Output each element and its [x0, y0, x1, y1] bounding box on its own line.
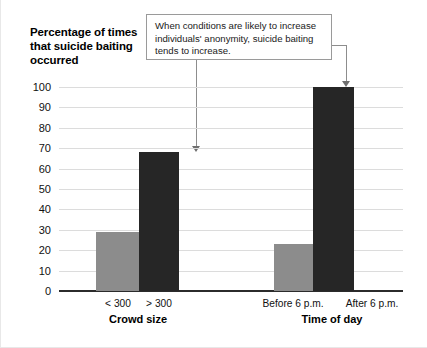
category-label-over-300: > 300 [146, 298, 172, 309]
bar-crowd-over-300 [139, 152, 179, 291]
group-label-crowd-size: Crowd size [109, 313, 167, 325]
y-tick-20: 20 [39, 244, 51, 256]
y-tick-40: 40 [39, 203, 51, 215]
y-axis-title: Percentage of times that suicide baiting… [30, 25, 142, 68]
y-tick-30: 30 [39, 224, 51, 236]
category-label-after-6pm: After 6 p.m. [346, 298, 399, 309]
chart-figure: Percentage of times that suicide baiting… [0, 0, 427, 348]
bar-time-before-6pm [274, 244, 313, 291]
callout-leader-line-right [346, 45, 347, 83]
callout-leader-stub-right [332, 45, 346, 46]
y-tick-0: 0 [45, 285, 51, 297]
y-tick-70: 70 [39, 142, 51, 154]
category-label-before-6pm: Before 6 p.m. [262, 298, 323, 309]
y-tick-80: 80 [39, 122, 51, 134]
y-tick-60: 60 [39, 163, 51, 175]
y-tick-10: 10 [39, 265, 51, 277]
y-tick-100: 100 [33, 81, 51, 93]
annotation-callout: When conditions are likely to increase i… [146, 14, 332, 60]
y-tick-50: 50 [39, 183, 51, 195]
bar-crowd-under-300 [96, 232, 139, 291]
bar-time-after-6pm [313, 87, 354, 291]
y-tick-90: 90 [39, 101, 51, 113]
category-label-under-300: < 300 [105, 298, 131, 309]
plot-area: 100 90 80 70 60 50 40 30 20 10 0 [59, 87, 403, 291]
group-label-time-of-day: Time of day [302, 313, 363, 325]
